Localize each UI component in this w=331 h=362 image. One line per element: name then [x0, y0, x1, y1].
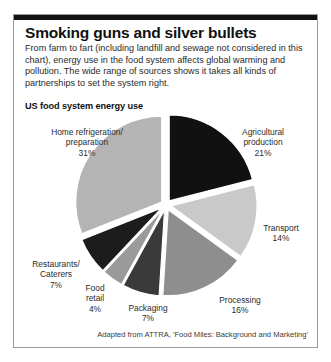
top-rule	[14, 15, 317, 20]
pie-label-agricultural-production: Agricultural production 21%	[218, 117, 308, 168]
pie-label-text: Transport	[263, 223, 299, 233]
standfirst-text: From farm to fart (including landfill an…	[25, 43, 309, 89]
pie-label-value: 14%	[248, 233, 314, 243]
infographic-panel: Smoking guns and silver bullets From far…	[13, 14, 318, 348]
pie-label-text: Processing	[219, 295, 260, 305]
pie-label-value: 4%	[77, 304, 113, 314]
pie-label-restaurants-caterers: Restaurants/ Caterers 7%	[21, 249, 91, 300]
pie-label-value: 21%	[218, 148, 308, 158]
pie-label-packaging: Packaging 7%	[117, 293, 179, 334]
pie-label-value: 7%	[117, 313, 179, 323]
pie-label-text: Restaurants/ Caterers	[32, 259, 79, 279]
pie-label-value: 16%	[200, 305, 280, 315]
chart-title: US food system energy use	[25, 101, 143, 111]
pie-label-text: Home refrigeration/ preparation	[51, 127, 123, 147]
pie-label-transport: Transport 14%	[248, 213, 314, 254]
pie-label-value: 7%	[21, 280, 91, 290]
pie-label-text: Packaging	[128, 303, 167, 313]
pie-label-text: Agricultural production	[242, 127, 284, 147]
pie-label-home-refrigeration-preparation: Home refrigeration/ preparation 31%	[28, 117, 146, 168]
pie-label-value: 31%	[28, 148, 146, 158]
pie-chart: Home refrigeration/ preparation 31% Agri…	[14, 113, 319, 318]
pie-label-processing: Processing 16%	[200, 285, 280, 326]
page-title: Smoking guns and silver bullets	[25, 24, 305, 41]
source-credit: Adapted from ATTRA, 'Food Miles: Backgro…	[14, 330, 308, 339]
